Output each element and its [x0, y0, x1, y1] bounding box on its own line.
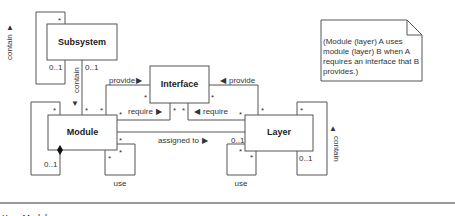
- mult: *: [250, 153, 253, 162]
- mult: 0..1: [231, 136, 245, 145]
- mult: *: [144, 93, 147, 102]
- layer-contain-arrow-icon: ▲: [329, 124, 337, 133]
- mult: *: [211, 93, 214, 102]
- mult: *: [173, 106, 176, 115]
- mult: 0..1: [44, 160, 58, 169]
- layer-require-arrow-icon: ◀: [194, 107, 201, 116]
- mult: *: [182, 106, 185, 115]
- layer-provide-label: provide: [229, 76, 256, 85]
- key-text: Key: Module: [2, 213, 52, 216]
- mult: *: [100, 106, 103, 115]
- contain-down-arrow-icon: ▼: [71, 99, 79, 108]
- layer-use-label: use: [235, 179, 248, 188]
- mult: *: [53, 106, 56, 115]
- layer-provide-arrow-icon: ◀: [220, 76, 227, 85]
- mult: *: [119, 136, 122, 145]
- note-line: (Module (layer) A uses: [323, 37, 403, 46]
- mult: *: [85, 106, 88, 115]
- module-use-label: use: [114, 179, 127, 188]
- module-require-label: require: [128, 107, 153, 116]
- module-name: Module: [67, 127, 99, 137]
- note-line: requires an interface that B: [323, 57, 419, 66]
- assigned-to-arrow-icon: ▶: [202, 136, 209, 145]
- mult: *: [239, 110, 242, 119]
- note-line: provides.): [323, 67, 358, 76]
- mult: *: [108, 154, 111, 163]
- layer-name: Layer: [267, 127, 292, 137]
- mult: 0..1: [85, 63, 99, 72]
- mult: 0..1: [49, 63, 63, 72]
- assigned-to-label: assigned to: [158, 136, 199, 145]
- subsystem-contain-arrow-icon: ▲: [6, 23, 14, 32]
- mult: *: [119, 110, 122, 119]
- subsystem-contain-label: contain: [5, 34, 14, 60]
- mult: *: [239, 147, 242, 156]
- mult: *: [119, 148, 122, 157]
- layer-require-label: require: [203, 107, 228, 116]
- mult: *: [261, 106, 264, 115]
- module-provide-label: provide: [109, 76, 136, 85]
- subsystem-name: Subsystem: [58, 37, 106, 47]
- subsystem-module-contain-label: contain: [72, 67, 81, 93]
- require-arrow-icon: ▶: [156, 107, 163, 116]
- mult: *: [300, 106, 303, 115]
- layer-contain-label: contain: [332, 136, 341, 162]
- interface-name: Interface: [161, 79, 199, 89]
- uml-diagram: Subsystem Interface Module Layer contain…: [0, 0, 455, 216]
- note-line: module (layer) B when A: [323, 47, 411, 56]
- provide-arrow-icon: ▶: [136, 76, 143, 85]
- mult: *: [58, 16, 61, 25]
- mult: 0..1: [299, 154, 313, 163]
